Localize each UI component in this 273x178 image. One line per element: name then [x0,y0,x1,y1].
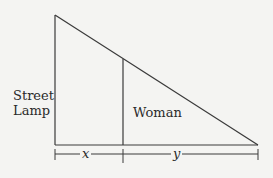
street-lamp-label-line1: Street [13,88,54,103]
y-distance-label: y [171,146,182,161]
light-ray-hypotenuse [55,15,258,145]
x-distance-label: x [80,146,91,161]
woman-label: Woman [133,105,182,120]
street-lamp-label-line2: Lamp [13,103,50,118]
